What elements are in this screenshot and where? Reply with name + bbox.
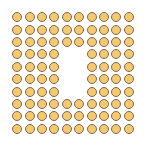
grid-cell: [36, 23, 48, 35]
grid-cell: [11, 48, 23, 60]
grid-cell: [110, 123, 122, 135]
grid-cell: [36, 61, 48, 73]
circle-icon: [87, 111, 97, 121]
grid-cell: [61, 23, 73, 35]
circle-icon: [111, 49, 121, 59]
grid-cell: [23, 73, 35, 85]
grid-cell: [123, 61, 135, 73]
grid-cell: [61, 110, 73, 122]
circle-icon: [124, 87, 134, 97]
circle-icon: [49, 124, 59, 134]
circle-icon: [124, 99, 134, 109]
grid-cell: [123, 123, 135, 135]
grid-cell: [123, 85, 135, 97]
circle-icon: [12, 111, 22, 121]
circle-icon: [37, 12, 47, 22]
grid-cell: [110, 11, 122, 23]
circle-icon: [124, 49, 134, 59]
grid-cell: [98, 73, 110, 85]
circle-icon: [37, 111, 47, 121]
grid-cell: [98, 48, 110, 60]
circle-icon: [49, 74, 59, 84]
circle-icon: [49, 99, 59, 109]
circle-icon: [49, 25, 59, 35]
circle-icon: [87, 49, 97, 59]
grid-cell: [23, 48, 35, 60]
circle-icon: [12, 99, 22, 109]
grid-cell: [98, 61, 110, 73]
circle-icon: [87, 37, 97, 47]
grid-cell: [61, 73, 73, 85]
circle-icon: [87, 62, 97, 72]
circle-icon: [37, 87, 47, 97]
circle-icon: [111, 12, 121, 22]
circle-icon: [111, 124, 121, 134]
circle-icon: [49, 12, 59, 22]
circle-icon: [87, 124, 97, 134]
circle-icon: [25, 111, 35, 121]
circle-icon: [12, 37, 22, 47]
grid-cell: [85, 61, 97, 73]
circle-icon: [25, 25, 35, 35]
grid-cell: [85, 11, 97, 23]
circle-icon: [99, 37, 109, 47]
grid-cell: [48, 48, 60, 60]
circle-icon: [25, 124, 35, 134]
grid-cell: [73, 85, 85, 97]
grid-cell: [36, 73, 48, 85]
grid-cell: [110, 61, 122, 73]
circle-icon: [49, 111, 59, 121]
grid-cell: [23, 61, 35, 73]
grid-cell: [48, 11, 60, 23]
grid-cell: [48, 98, 60, 110]
circle-icon: [111, 25, 121, 35]
grid-cell: [123, 36, 135, 48]
circle-icon: [62, 111, 72, 121]
grid-cell: [123, 98, 135, 110]
grid-cell: [23, 11, 35, 23]
grid-cell: [98, 23, 110, 35]
grid-cell: [123, 11, 135, 23]
grid-cell: [85, 110, 97, 122]
grid-cell: [123, 23, 135, 35]
circle-icon: [12, 124, 22, 134]
grid-cell: [11, 11, 23, 23]
grid-cell: [36, 85, 48, 97]
grid-cell: [61, 48, 73, 60]
circle-icon: [12, 74, 22, 84]
circle-icon: [124, 74, 134, 84]
circle-icon: [37, 99, 47, 109]
grid-cell: [73, 73, 85, 85]
circle-icon: [49, 87, 59, 97]
circle-icon: [124, 25, 134, 35]
grid-cell: [110, 73, 122, 85]
grid-cell: [73, 98, 85, 110]
circle-icon: [25, 62, 35, 72]
circle-icon: [37, 62, 47, 72]
grid-cell: [48, 73, 60, 85]
grid-cell: [23, 123, 35, 135]
grid-cell: [48, 23, 60, 35]
circle-icon: [124, 37, 134, 47]
circle-icon: [124, 62, 134, 72]
grid-cell: [98, 85, 110, 97]
grid-cell: [73, 11, 85, 23]
grid-cell: [98, 110, 110, 122]
circle-icon: [62, 124, 72, 134]
circle-icon: [74, 25, 84, 35]
grid-cell: [85, 123, 97, 135]
grid-cell: [48, 123, 60, 135]
grid-cell: [23, 85, 35, 97]
circle-icon: [62, 37, 72, 47]
circle-icon: [111, 37, 121, 47]
circle-icon: [99, 49, 109, 59]
grid-cell: [61, 85, 73, 97]
circle-icon: [12, 87, 22, 97]
grid-cell: [73, 123, 85, 135]
circle-grid: [11, 11, 135, 135]
circle-icon: [87, 87, 97, 97]
circle-icon: [62, 99, 72, 109]
grid-cell: [110, 98, 122, 110]
circle-icon: [124, 12, 134, 22]
grid-cell: [36, 36, 48, 48]
